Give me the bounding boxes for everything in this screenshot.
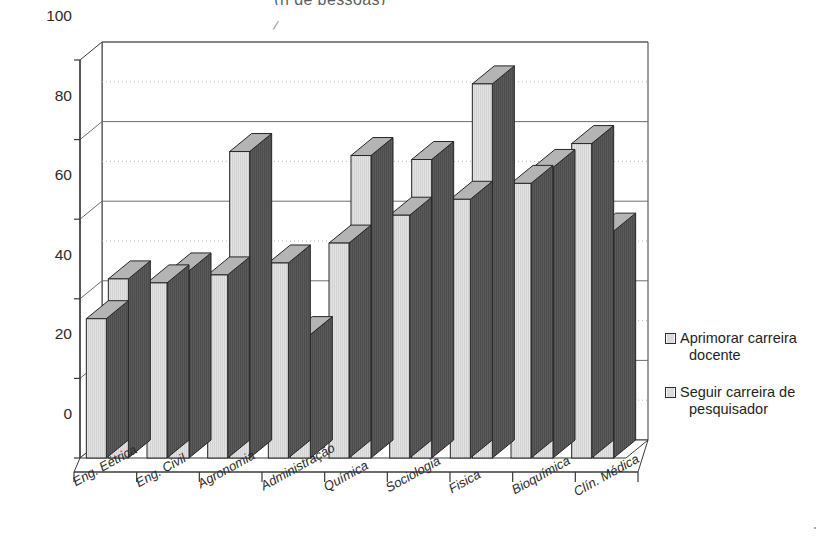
legend-label-0: Aprimorar carreira docente: [680, 330, 797, 364]
y-axis-tick-label: 60: [32, 167, 72, 183]
y-axis-tick-label: 80: [32, 88, 72, 104]
bar-group: [511, 149, 575, 458]
bar-series-0: [268, 245, 310, 458]
bar-chart-svg: [78, 44, 678, 464]
y-axis-tick-label: 20: [32, 326, 72, 342]
chart-root: (n de pessoas) / 020406080100 Eng. Eétri…: [0, 0, 834, 555]
legend-label-1-line1: Seguir carreira de: [680, 384, 795, 400]
x-axis-labels: Eng. EétricaEng. CivilAgronomiaAdministr…: [78, 466, 658, 552]
scan-artifact-corner-speck: [814, 527, 816, 529]
legend-label-1-line2: pesquisador: [680, 401, 795, 418]
bar-series-0: [86, 301, 128, 458]
scan-artifact-slash: /: [272, 18, 280, 33]
bar-series-0: [511, 165, 553, 458]
bar-series-0: [572, 126, 614, 458]
y-axis-labels: 020406080100: [24, 0, 72, 555]
bar-series-0: [390, 197, 432, 458]
legend-item-0: Aprimorar carreira docente: [665, 330, 833, 364]
bar-series-0: [450, 181, 492, 458]
y-axis-tick-label: 100: [32, 8, 72, 24]
legend-item-1: Seguir carreira de pesquisador: [665, 384, 833, 418]
y-axis-tick-label: 0: [32, 406, 72, 422]
bar-series-0: [147, 265, 189, 458]
legend-swatch-icon: [665, 387, 676, 398]
chart-legend: Aprimorar carreira docente Seguir carrei…: [665, 330, 833, 438]
bar-series-0: [208, 257, 250, 458]
legend-swatch-icon: [665, 333, 676, 344]
y-axis-tick-label: 40: [32, 247, 72, 263]
chart-title: (n de pessoas): [0, 0, 660, 5]
plot-area: [78, 44, 648, 458]
legend-label-0-line1: Aprimorar carreira: [680, 330, 797, 346]
x-axis-category-label: Fisica: [446, 467, 483, 497]
bar-series-0: [329, 225, 371, 458]
legend-label-1: Seguir carreira de pesquisador: [680, 384, 795, 418]
legend-label-0-line2: docente: [680, 347, 797, 364]
bar-group: [147, 253, 211, 458]
